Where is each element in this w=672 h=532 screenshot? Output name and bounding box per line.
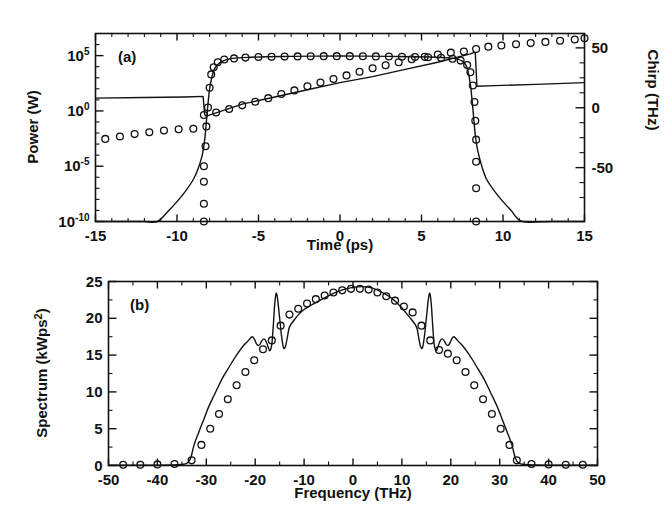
x-tick-label: -5 xyxy=(252,227,265,244)
y-tick-label: 25 xyxy=(86,273,103,290)
x-tick-label: -40 xyxy=(147,471,169,488)
x-tick-label: -30 xyxy=(195,471,217,488)
panel-a-tag: (a) xyxy=(118,48,136,65)
x-tick-label: 15 xyxy=(576,227,593,244)
figure-background xyxy=(0,0,672,532)
panel-b-tag: (b) xyxy=(130,296,149,313)
panel-b-x-axis-label: Frequency (THz) xyxy=(294,484,412,501)
y-tick-label: 15 xyxy=(86,346,103,363)
panel-a-x-axis-label: Time (ps) xyxy=(307,236,373,253)
y-right-tick-label: 50 xyxy=(592,39,609,56)
panel-b-y-axis-label: Spectrum (kWps2) xyxy=(32,308,50,437)
x-tick-label: 10 xyxy=(495,227,512,244)
y-tick-label: 20 xyxy=(86,309,103,326)
y-right-tick-label: -50 xyxy=(592,159,614,176)
panel-a-y-right-axis-label: Chirp (THz) xyxy=(645,50,662,131)
figure-svg: -15-10-5051015 10510010-510-10 500-50 (a… xyxy=(0,0,672,532)
panel-a-y-left-axis-label: Power (W) xyxy=(24,90,41,163)
x-tick-label: 40 xyxy=(540,471,557,488)
x-tick-label: 5 xyxy=(417,227,425,244)
figure-root: -15-10-5051015 10510010-510-10 500-50 (a… xyxy=(0,0,672,532)
y-tick-label: 5 xyxy=(94,420,102,437)
y-tick-label: 10 xyxy=(86,383,103,400)
panel-b-y-axis-label-group: Spectrum (kWps2) xyxy=(32,308,50,437)
x-tick-label: 20 xyxy=(442,471,459,488)
x-tick-label: 50 xyxy=(589,471,606,488)
x-tick-label: -15 xyxy=(85,227,107,244)
x-tick-label: 30 xyxy=(491,471,508,488)
y-right-tick-label: 0 xyxy=(592,99,600,116)
y-tick-label: 0 xyxy=(94,457,102,474)
x-tick-label: -20 xyxy=(244,471,266,488)
x-tick-label: -10 xyxy=(166,227,188,244)
